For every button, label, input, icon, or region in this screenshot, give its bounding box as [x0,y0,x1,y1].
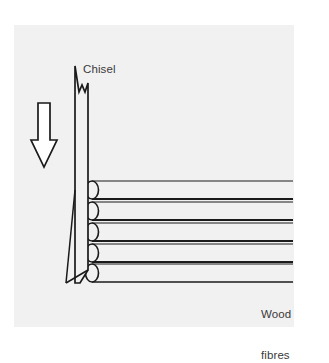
wood-fibre [86,202,294,220]
chisel-label: Chisel [83,63,116,77]
wood-fibre [86,223,294,241]
wood-fibres-label: Wood fibres [261,281,291,363]
wood-fibre [86,244,294,262]
fibre-body [92,244,293,262]
wood-fibres-group [86,181,294,282]
wood-fibre [86,264,294,282]
fibre-body [92,223,293,241]
fibre-body [92,264,293,282]
wood-fibres-label-line2: fibres [261,349,291,363]
wood-fibre [86,181,294,199]
fibre-body [92,202,293,220]
chisel-body [75,66,88,283]
wood-fibres-label-line1: Wood [261,308,291,322]
fibre-body [92,181,293,199]
